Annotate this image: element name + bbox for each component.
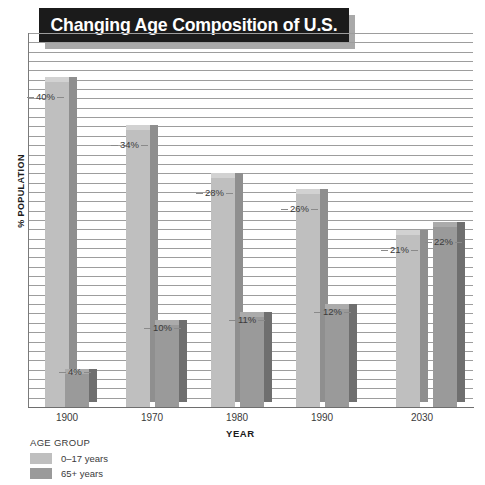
legend-swatch-65plus bbox=[30, 468, 52, 479]
bar-side-face bbox=[457, 222, 465, 402]
bar-label-1900-65plus: 4% bbox=[68, 366, 82, 377]
bar-front-face bbox=[396, 235, 420, 407]
bar-front-face bbox=[433, 227, 457, 407]
bar-side-face bbox=[420, 230, 428, 402]
gridline bbox=[28, 42, 473, 43]
gridline bbox=[28, 211, 473, 212]
gridline bbox=[28, 126, 473, 127]
x-axis-title: YEAR bbox=[226, 428, 255, 439]
gridline bbox=[28, 145, 473, 146]
bar-front-face bbox=[65, 374, 89, 407]
legend-label-65plus: 65+ years bbox=[61, 468, 103, 479]
bar-side-face bbox=[69, 77, 77, 402]
legend-label-0-17: 0–17 years bbox=[61, 453, 108, 464]
bar-front-face bbox=[126, 130, 150, 407]
bar-label-1970-0-17: 34% bbox=[120, 139, 139, 150]
bar-side-face bbox=[89, 369, 97, 402]
y-axis-title: % POPULATION bbox=[16, 154, 26, 228]
gridline bbox=[28, 98, 473, 99]
bar-label-1900-0-17: 40% bbox=[36, 91, 55, 102]
bar-2030-0-17 bbox=[396, 235, 420, 407]
y-axis-line bbox=[28, 33, 29, 408]
bar-label-1980-65plus: 11% bbox=[238, 314, 256, 325]
bar-side-face bbox=[349, 304, 357, 402]
x-tick-label-1980: 1980 bbox=[212, 412, 262, 423]
bar-front-face bbox=[296, 194, 320, 407]
bar-1980-65plus bbox=[240, 317, 264, 407]
bar-label-1990-0-17: 26% bbox=[290, 203, 309, 214]
bar-front-face bbox=[155, 325, 179, 407]
gridline bbox=[28, 201, 473, 202]
bar-label-1970-65plus: 10% bbox=[153, 322, 172, 333]
bar-front-face bbox=[45, 82, 69, 407]
legend-item-0-17: 0–17 years bbox=[30, 453, 108, 464]
gridline bbox=[28, 80, 473, 81]
legend: AGE GROUP 0–17 years 65+ years bbox=[30, 437, 108, 483]
gridline bbox=[28, 52, 473, 53]
gridline bbox=[28, 164, 473, 165]
bar-1970-65plus bbox=[155, 325, 179, 407]
gridline bbox=[28, 61, 473, 62]
bar-front-face bbox=[325, 309, 349, 407]
gridline bbox=[28, 183, 473, 184]
bar-label-2030-0-17: 21% bbox=[390, 244, 409, 255]
x-tick-label-1990: 1990 bbox=[297, 412, 347, 423]
x-tick-label-1900: 1900 bbox=[42, 412, 92, 423]
bar-side-face bbox=[179, 320, 187, 402]
bar-label-1990-65plus: 12% bbox=[323, 306, 342, 317]
bar-label-2030-65plus: 22% bbox=[434, 236, 453, 247]
gridline bbox=[28, 89, 473, 90]
x-axis-line bbox=[28, 407, 474, 408]
bar-side-face bbox=[264, 312, 272, 402]
bar-1900-65plus bbox=[65, 374, 89, 407]
bar-label-1980-0-17: 28% bbox=[205, 187, 224, 198]
x-tick-label-1970: 1970 bbox=[127, 412, 177, 423]
chart-figure: Changing Age Composition of U.S. % POPUL… bbox=[0, 0, 485, 485]
bar-1980-0-17 bbox=[211, 178, 235, 407]
gridline bbox=[28, 33, 473, 34]
bar-1900-0-17 bbox=[45, 82, 69, 407]
bar-1990-65plus bbox=[325, 309, 349, 407]
legend-title: AGE GROUP bbox=[30, 437, 108, 448]
gridline bbox=[28, 70, 473, 71]
legend-swatch-0-17 bbox=[30, 453, 52, 464]
gridline bbox=[28, 108, 473, 109]
bar-2030-65plus bbox=[433, 227, 457, 407]
x-tick-label-2030: 2030 bbox=[397, 412, 447, 423]
bar-front-face bbox=[240, 317, 264, 407]
gridline bbox=[28, 173, 473, 174]
gridline bbox=[28, 117, 473, 118]
bar-1970-0-17 bbox=[126, 130, 150, 407]
legend-item-65plus: 65+ years bbox=[30, 468, 108, 479]
bar-front-face bbox=[211, 178, 235, 407]
gridline bbox=[28, 220, 473, 221]
gridline bbox=[28, 192, 473, 193]
gridline bbox=[28, 136, 473, 137]
bar-1990-0-17 bbox=[296, 194, 320, 407]
gridline bbox=[28, 155, 473, 156]
